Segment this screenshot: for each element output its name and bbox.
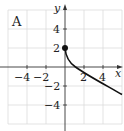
y-tick-label: −4 [44, 99, 60, 112]
y-axis-arrow-icon [63, 4, 67, 10]
y-tick-label: 2 [53, 42, 60, 55]
y-tick-label: −2 [44, 80, 60, 93]
x-tick-label: −4 [14, 71, 30, 84]
x-axis-label: x [115, 67, 122, 80]
y-tick-label: 4 [53, 23, 60, 36]
start-point-marker [62, 45, 68, 51]
panel-label: A [11, 14, 22, 29]
function-graph: A y x −4 −2 2 4 4 2 −2 −4 [0, 0, 124, 131]
y-axis-label: y [53, 2, 61, 15]
function-curve [65, 48, 122, 95]
